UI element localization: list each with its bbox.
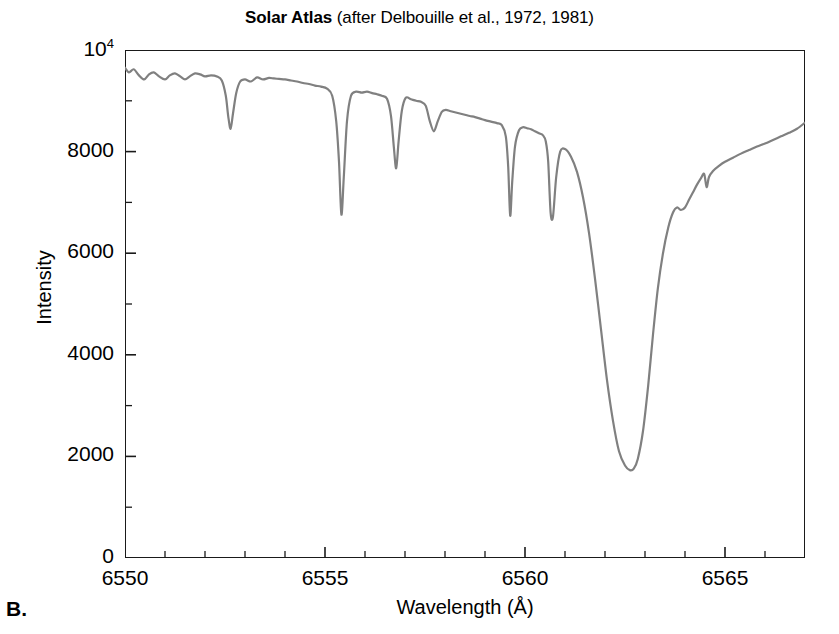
panel-label: B.: [6, 597, 27, 621]
spectrum-plot: [125, 50, 805, 558]
y-axis-title: Intensity: [33, 178, 56, 398]
y-tick-label: 0: [0, 544, 114, 568]
x-tick-label: 6555: [302, 566, 349, 590]
y-tick-label: 6000: [0, 239, 114, 263]
y-tick-label: 104: [0, 36, 114, 61]
x-tick-label: 6550: [102, 566, 149, 590]
spectrum-line: [125, 68, 805, 471]
chart-title: Solar Atlas (after Delbouille et al., 19…: [0, 8, 839, 28]
chart-title-main: Solar Atlas: [245, 8, 332, 27]
y-tick-label: 4000: [0, 341, 114, 365]
y-tick-label: 8000: [0, 138, 114, 162]
x-tick-label: 6560: [502, 566, 549, 590]
figure-panel: B. Solar Atlas (after Delbouille et al.,…: [0, 0, 839, 634]
x-tick-label: 6565: [702, 566, 749, 590]
chart-title-citation: (after Delbouille et al., 1972, 1981): [332, 8, 594, 27]
x-axis-title: Wavelength (Å): [125, 596, 805, 619]
axis-ticks: [125, 50, 805, 558]
y-tick-label: 2000: [0, 442, 114, 466]
